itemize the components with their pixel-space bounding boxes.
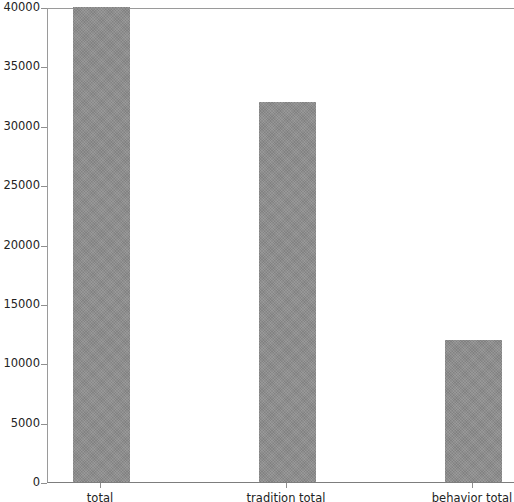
x-axis-tick-mark [472,483,473,488]
y-axis-tick-label: 15000 [0,297,40,311]
y-axis-tick-mark [41,424,47,425]
y-axis-tick-mark [41,483,47,484]
bar [445,340,502,483]
y-axis-tick-mark [41,127,47,128]
y-axis-tick-mark [41,67,47,68]
y-axis-tick-label: 30000 [0,119,40,133]
y-axis-tick-mark [41,364,47,365]
x-axis-tick-label: total [10,491,190,502]
bar-chart: 0500010000150002000025000300003500040000… [0,0,514,502]
y-axis-tick-label: 0 [0,475,40,489]
y-axis-tick-label: 25000 [0,178,40,192]
x-axis-tick-mark [100,483,101,488]
y-axis-tick-label: 5000 [0,416,40,430]
y-axis-tick-label: 40000 [0,0,40,14]
x-axis-tick-mark [286,483,287,488]
x-axis-tick-label: tradition total [196,491,376,502]
y-axis-tick-mark [41,8,47,9]
bar [259,102,316,482]
y-axis-tick-label: 10000 [0,356,40,370]
y-axis-tick-mark [41,186,47,187]
plot-area [47,8,514,483]
y-axis-tick-mark [41,246,47,247]
bar [73,7,130,482]
y-axis-tick-label: 20000 [0,238,40,252]
y-axis-tick-mark [41,305,47,306]
x-axis-tick-label: behavior total [382,491,514,502]
y-axis-tick-label: 35000 [0,59,40,73]
